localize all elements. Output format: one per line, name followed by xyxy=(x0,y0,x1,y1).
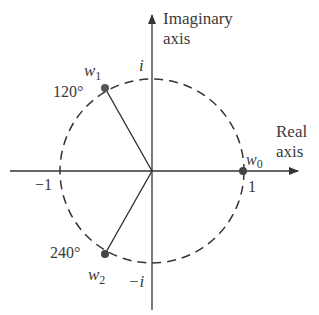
tick-label-neg-one: −1 xyxy=(35,176,52,193)
imaginary-axis-label-line1: Imaginary xyxy=(163,9,233,28)
point-w1 xyxy=(101,84,109,92)
tick-label-neg-i: −i xyxy=(128,272,144,291)
radius-w2 xyxy=(105,171,152,254)
label-w0: w0 xyxy=(246,151,263,171)
real-axis-label-line1: Real xyxy=(276,122,307,141)
label-w1: w1 xyxy=(84,61,101,83)
angle-label-120: 120° xyxy=(53,83,83,100)
complex-plane-diagram: Imaginary axis Real axis 1 −1 i −i w0 w1… xyxy=(0,0,319,315)
tick-label-pos-i: i xyxy=(139,56,144,75)
label-w2: w2 xyxy=(88,265,105,287)
tick-label-pos-one: 1 xyxy=(248,178,256,195)
imaginary-axis-label-line2: axis xyxy=(163,29,190,48)
radius-w1 xyxy=(105,88,152,171)
point-w2 xyxy=(101,250,109,258)
point-w0 xyxy=(239,167,247,175)
angle-label-240: 240° xyxy=(50,244,80,261)
real-axis-label-line2: axis xyxy=(276,142,303,161)
